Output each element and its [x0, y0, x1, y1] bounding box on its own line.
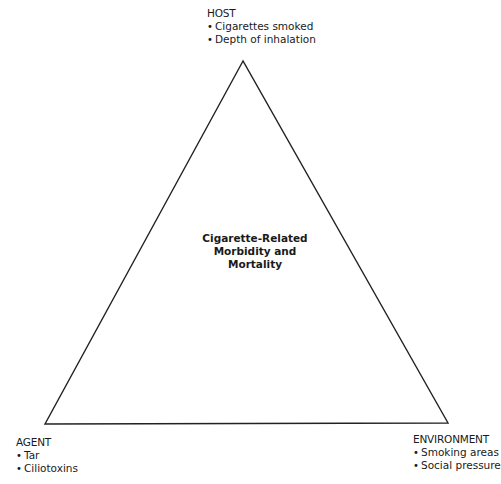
- host-factor-item: Cigarettes smoked: [207, 20, 316, 33]
- center-outcome-label: Cigarette-Related Morbidity and Mortalit…: [188, 232, 322, 271]
- environment-factor-item: Smoking areas: [413, 446, 501, 459]
- agent-factor-list: Tar Ciliotoxins: [16, 449, 78, 475]
- center-line: Cigarette-Related: [188, 232, 322, 245]
- agent-title: AGENT: [16, 436, 78, 449]
- environment-title: ENVIRONMENT: [413, 433, 501, 446]
- host-factor-item: Depth of inhalation: [207, 33, 316, 46]
- host-vertex-label: HOST Cigarettes smoked Depth of inhalati…: [207, 7, 316, 46]
- epidemiologic-triangle-diagram: HOST Cigarettes smoked Depth of inhalati…: [0, 0, 501, 484]
- agent-factor-item: Ciliotoxins: [16, 462, 78, 475]
- agent-vertex-label: AGENT Tar Ciliotoxins: [16, 436, 78, 475]
- center-line: Morbidity and: [188, 245, 322, 258]
- environment-vertex-label: ENVIRONMENT Smoking areas Social pressur…: [413, 433, 501, 472]
- host-title: HOST: [207, 7, 316, 20]
- environment-factor-list: Smoking areas Social pressure: [413, 446, 501, 472]
- agent-factor-item: Tar: [16, 449, 78, 462]
- center-line: Mortality: [188, 258, 322, 271]
- environment-factor-item: Social pressure: [413, 459, 501, 472]
- host-factor-list: Cigarettes smoked Depth of inhalation: [207, 20, 316, 46]
